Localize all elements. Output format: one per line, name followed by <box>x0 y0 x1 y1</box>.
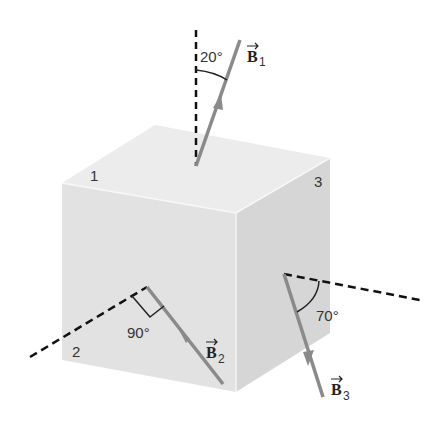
svg-text:3: 3 <box>343 389 350 403</box>
face-label-1: 1 <box>90 167 98 184</box>
svg-text:B: B <box>331 381 342 398</box>
face-label-3: 3 <box>314 173 322 190</box>
angle-arc-20 <box>196 70 227 80</box>
face-label-2: 2 <box>72 343 80 360</box>
svg-text:B: B <box>206 344 217 361</box>
vector-label-b3: B 3 <box>331 376 350 403</box>
angle-label-20: 20° <box>200 48 223 65</box>
magnetic-flux-cube-diagram: 1 3 2 20° B 1 90° B 2 70° B 3 <box>0 0 439 425</box>
angle-label-70: 70° <box>316 307 339 324</box>
vector-label-b1: B 1 <box>247 43 266 69</box>
angle-label-90: 90° <box>127 324 150 341</box>
svg-text:1: 1 <box>259 55 266 69</box>
svg-text:B: B <box>247 48 258 65</box>
svg-text:2: 2 <box>218 352 225 366</box>
